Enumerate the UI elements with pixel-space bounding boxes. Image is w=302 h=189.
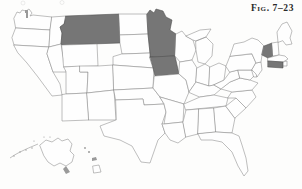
- state-montana: [60, 14, 120, 45]
- hawaii-island-oahu: [88, 151, 90, 153]
- state-south-dakota: [120, 34, 150, 54]
- state-alaska: [40, 138, 74, 166]
- state-louisiana: [162, 122, 186, 143]
- state-north-dakota: [119, 14, 148, 35]
- hawaii-island-maui: [92, 157, 97, 161]
- state-new-mexico: [87, 90, 116, 120]
- state-connecticut: [268, 61, 283, 68]
- state-mississippi: [183, 109, 199, 137]
- state-iowa: [150, 56, 179, 76]
- alaska-inset: [10, 136, 74, 174]
- figure-caption: Fig. 7–23: [251, 3, 294, 13]
- figure-container: Fig. 7–23: [0, 0, 302, 189]
- state-florida: [198, 132, 248, 176]
- hawaii-inset: [84, 147, 101, 173]
- state-rhode-island: [283, 61, 287, 66]
- state-arizona: [62, 93, 89, 121]
- state-new-hampshire: [272, 42, 279, 56]
- state-pennsylvania: [226, 54, 256, 72]
- state-kansas: [113, 65, 154, 90]
- state-washington: [14, 9, 52, 30]
- hawaii-island-big-island: [93, 165, 101, 173]
- scan-artifacts: [21, 1, 64, 6]
- state-oregon: [12, 28, 50, 47]
- state-alabama: [198, 108, 216, 134]
- state-wyoming: [62, 44, 98, 67]
- state-minnesota: [147, 9, 176, 57]
- state-vermont: [262, 43, 273, 58]
- us-map: [0, 0, 302, 189]
- state-maine: [277, 22, 292, 45]
- hawaii-island-kauai: [84, 147, 86, 149]
